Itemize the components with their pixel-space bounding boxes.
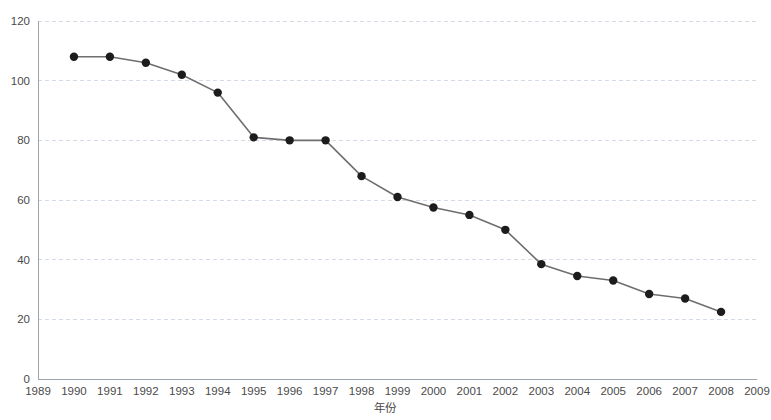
x-tick-label: 2002 — [493, 385, 519, 397]
data-point — [573, 272, 581, 280]
line-chart: 020406080100120 198919901991199219931994… — [0, 0, 771, 420]
data-point — [250, 133, 258, 141]
chart-canvas: 020406080100120 198919901991199219931994… — [0, 0, 771, 420]
data-point — [178, 71, 186, 79]
data-point — [357, 172, 365, 180]
data-point — [465, 211, 473, 219]
data-point — [537, 260, 545, 268]
y-axis-tick-labels: 020406080100120 — [11, 15, 30, 385]
data-point — [106, 53, 114, 61]
data-point — [285, 136, 293, 144]
x-tick-label: 1989 — [25, 385, 51, 397]
x-axis-title: 年份 — [374, 401, 397, 414]
data-point — [142, 59, 150, 67]
x-axis-tick-labels: 1989199019911992199319941995199619971998… — [25, 385, 770, 397]
data-point — [321, 136, 329, 144]
x-tick-label: 1991 — [97, 385, 123, 397]
x-tick-label: 2003 — [529, 385, 555, 397]
data-point — [214, 88, 222, 96]
y-tick-label: 0 — [24, 373, 30, 385]
y-tick-label: 100 — [11, 75, 30, 87]
x-tick-label: 1993 — [169, 385, 195, 397]
x-tick-label: 1995 — [241, 385, 267, 397]
data-point — [429, 203, 437, 211]
x-tick-label: 1997 — [313, 385, 339, 397]
y-tick-label: 60 — [17, 194, 30, 206]
x-tick-label: 2006 — [636, 385, 662, 397]
data-point — [501, 226, 509, 234]
y-tick-label: 80 — [17, 134, 30, 146]
x-tick-label: 1996 — [277, 385, 303, 397]
data-point — [393, 193, 401, 201]
data-point — [645, 290, 653, 298]
x-tick-label: 1990 — [61, 385, 87, 397]
y-tick-label: 40 — [17, 254, 30, 266]
x-tick-label: 1994 — [205, 385, 231, 397]
data-point — [70, 53, 78, 61]
y-tick-label: 120 — [11, 15, 30, 27]
data-point — [717, 308, 725, 316]
x-tick-label: 1992 — [133, 385, 159, 397]
x-tick-label: 1998 — [349, 385, 375, 397]
x-tick-label: 1999 — [385, 385, 411, 397]
x-tick-label: 2005 — [600, 385, 626, 397]
data-point — [681, 294, 689, 302]
y-tick-label: 20 — [17, 313, 30, 325]
x-tick-label: 2004 — [564, 385, 590, 397]
x-tick-label: 2001 — [457, 385, 483, 397]
x-tick-label: 2000 — [421, 385, 447, 397]
x-tick-label: 2008 — [708, 385, 734, 397]
x-tick-label: 2007 — [672, 385, 698, 397]
x-tick-label: 2009 — [744, 385, 770, 397]
data-point — [609, 276, 617, 284]
